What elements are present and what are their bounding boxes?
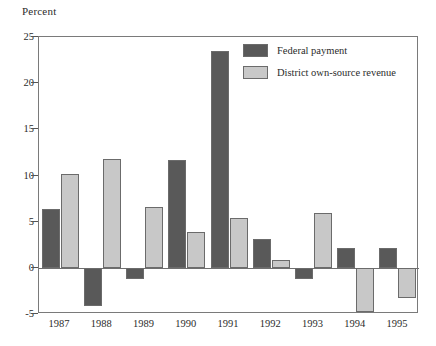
legend-item-federal: Federal payment <box>243 44 396 57</box>
x-axis-tick-label: 1992 <box>260 318 281 329</box>
bar-federal-payment-1992 <box>253 239 271 268</box>
bar-district-own-source-revenue-1995 <box>398 268 416 298</box>
y-axis-tick-mark <box>31 36 38 37</box>
bar-federal-payment-1994 <box>337 248 355 267</box>
y-axis-labels: 2520151050-5 <box>4 36 34 313</box>
chart-legend: Federal paymentDistrict own-source reven… <box>243 44 396 88</box>
y-axis-title: Percent <box>22 5 56 17</box>
bar-district-own-source-revenue-1992 <box>272 260 290 267</box>
bar-federal-payment-1991 <box>211 51 229 268</box>
bar-federal-payment-1990 <box>168 160 186 268</box>
legend-item-district: District own-source revenue <box>243 66 396 79</box>
x-axis-tick-label: 1993 <box>302 318 323 329</box>
legend-item-label: District own-source revenue <box>277 67 396 78</box>
legend-swatch-icon <box>243 44 268 57</box>
bar-federal-payment-1993 <box>295 268 313 279</box>
bar-district-own-source-revenue-1991 <box>230 218 248 268</box>
y-axis-tick-mark <box>31 82 38 83</box>
bar-district-own-source-revenue-1994 <box>356 268 374 312</box>
x-axis-tick-label: 1995 <box>386 318 407 329</box>
bar-federal-payment-1987 <box>42 209 60 268</box>
x-axis-tick-label: 1987 <box>49 318 70 329</box>
bar-federal-payment-1995 <box>379 248 397 267</box>
x-axis-tick-label: 1991 <box>218 318 239 329</box>
y-axis-tick-mark <box>31 221 38 222</box>
bar-district-own-source-revenue-1993 <box>314 213 332 267</box>
bar-district-own-source-revenue-1988 <box>103 159 121 268</box>
bar-district-own-source-revenue-1989 <box>145 207 163 268</box>
bar-district-own-source-revenue-1990 <box>187 232 205 268</box>
x-axis-tick-label: 1990 <box>175 318 196 329</box>
y-axis-tick-mark <box>31 128 38 129</box>
legend-item-label: Federal payment <box>277 45 347 56</box>
bar-federal-payment-1989 <box>126 268 144 279</box>
x-axis-tick-label: 1994 <box>344 318 365 329</box>
legend-swatch-icon <box>243 66 268 79</box>
x-axis-tick-label: 1988 <box>91 318 112 329</box>
bar-federal-payment-1988 <box>84 268 102 306</box>
bar-district-own-source-revenue-1987 <box>61 174 79 268</box>
y-axis-tick-mark <box>31 267 38 268</box>
chart-figure: Percent 2520151050-5 Federal paymentDist… <box>0 0 436 346</box>
y-axis-tick-mark <box>31 313 38 314</box>
y-axis-tick-mark <box>31 175 38 176</box>
x-axis-tick-label: 1989 <box>133 318 154 329</box>
